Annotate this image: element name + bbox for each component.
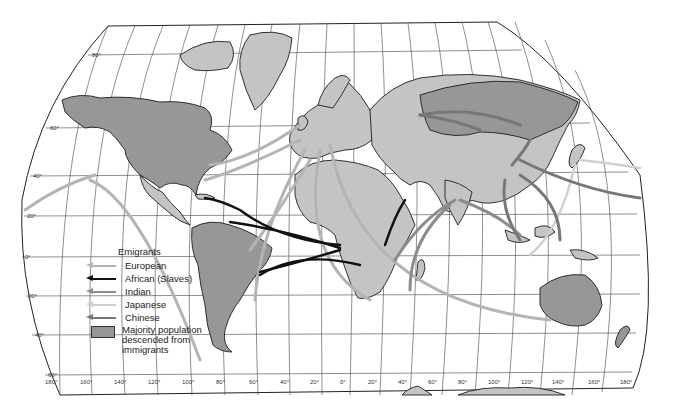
svg-text:60°: 60° [50, 125, 60, 131]
svg-text:60°: 60° [48, 372, 58, 378]
japanese-arrow-icon [86, 301, 116, 309]
legend-item-japanese: Japanese [86, 298, 226, 311]
legend-item-chinese: Chinese [86, 311, 226, 324]
arctic-islands [180, 41, 234, 70]
african-arrow-icon [86, 275, 116, 283]
africa [295, 160, 415, 298]
svg-text:80°: 80° [92, 52, 102, 58]
svg-text:120°: 120° [148, 379, 161, 385]
svg-text:20°: 20° [28, 293, 38, 299]
svg-text:140°: 140° [552, 379, 565, 385]
svg-text:40°: 40° [35, 332, 45, 338]
legend-item-european: European [86, 259, 226, 272]
legend: Emigrants European African (Slaves) Indi… [86, 246, 226, 355]
chinese-arrow-icon [86, 314, 116, 322]
majority-population-swatch [91, 326, 115, 338]
indian-arrow-icon [86, 288, 116, 296]
svg-text:80°: 80° [458, 379, 468, 385]
svg-text:160°: 160° [588, 379, 601, 385]
australia [540, 275, 602, 326]
svg-text:40°: 40° [33, 173, 43, 179]
longitude-labels: 180° 160° 140° 120° 100° 80° 60° 40° 20°… [45, 379, 633, 385]
svg-text:180°: 180° [45, 379, 58, 385]
antarctica-east [458, 387, 565, 395]
svg-text:100°: 100° [182, 379, 195, 385]
svg-text:140°: 140° [114, 379, 127, 385]
japanese-emigrant-arrows [530, 160, 640, 255]
svg-text:20°: 20° [368, 379, 378, 385]
svg-text:100°: 100° [488, 379, 501, 385]
legend-item-indian: Indian [86, 285, 226, 298]
legend-item-majority-population: Majority population descended from immig… [86, 325, 226, 355]
greenland [240, 32, 292, 110]
svg-text:0°: 0° [25, 254, 31, 260]
svg-text:120°: 120° [521, 379, 534, 385]
svg-text:60°: 60° [428, 379, 438, 385]
world-migration-map: 80° 60° 40° 20° 0° 20° 40° 60° 180° 160°… [0, 0, 677, 419]
new-zealand [615, 326, 630, 348]
svg-text:0°: 0° [340, 379, 346, 385]
svg-text:160°: 160° [80, 379, 93, 385]
svg-text:180°: 180° [620, 379, 633, 385]
european-arrow-icon [86, 262, 116, 270]
svg-text:20°: 20° [27, 213, 37, 219]
svg-text:60°: 60° [249, 379, 259, 385]
svg-text:20°: 20° [310, 379, 320, 385]
legend-title: Emigrants [118, 246, 226, 257]
svg-text:40°: 40° [280, 379, 290, 385]
new-guinea [570, 250, 598, 260]
svg-text:40°: 40° [398, 379, 408, 385]
svg-text:80°: 80° [216, 379, 226, 385]
legend-item-african: African (Slaves) [86, 272, 226, 285]
